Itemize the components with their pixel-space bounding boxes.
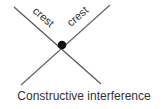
crest-label-right: crest (64, 4, 90, 29)
caption: Constructive interference (0, 89, 168, 103)
wave-line-1 (14, 7, 101, 84)
intersection-dot (58, 41, 67, 50)
